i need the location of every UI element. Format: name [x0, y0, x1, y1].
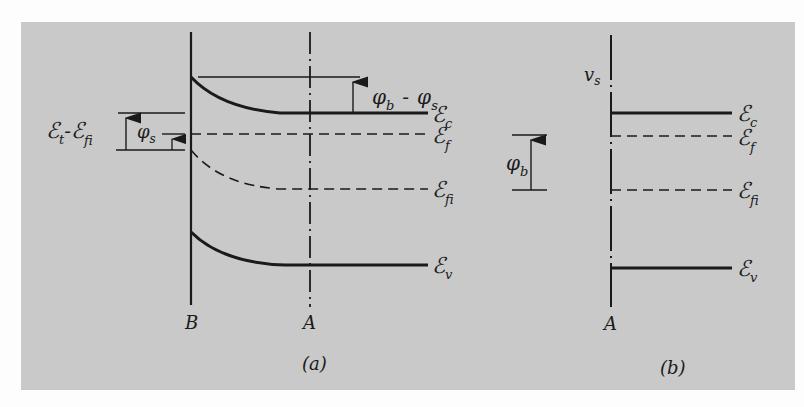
label-et-minus-efi: ℰt-ℰfi	[46, 118, 93, 148]
label-phib-minus-phis: φb-φs	[372, 85, 438, 113]
label-phi-s: φs	[137, 121, 156, 146]
caption-b: (b)	[660, 357, 686, 378]
svg-text:ℰv: ℰv	[432, 253, 453, 282]
label-a: A	[301, 312, 316, 333]
band-diagram: ℰc ℰf ℰfi ℰv φb-φs φs ℰt-ℰfi B A (a) vs …	[0, 0, 804, 407]
label-a-b: A	[602, 313, 617, 334]
svg-text:ℰv: ℰv	[737, 256, 758, 285]
panel-a	[116, 32, 428, 307]
label-b: B	[184, 312, 198, 333]
panel-a-labels: ℰc ℰf ℰfi ℰv φb-φs φs ℰt-ℰfi B A (a)	[46, 85, 454, 374]
svg-text:ℰfi: ℰfi	[432, 177, 454, 207]
panel-b-labels: vs φb ℰc ℰf ℰfi ℰv A (b)	[506, 64, 759, 378]
caption-a: (a)	[302, 353, 327, 374]
label-phi-b: φb	[506, 151, 528, 179]
label-vs: vs	[584, 64, 600, 88]
panel-b	[512, 35, 732, 307]
svg-text:ℰfi: ℰfi	[737, 178, 759, 208]
